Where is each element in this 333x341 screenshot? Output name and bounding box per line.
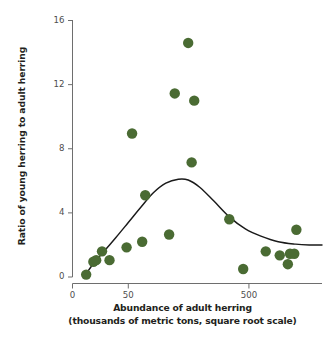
x-axis-title: Abundance of adult herring (thousands of… — [40, 302, 325, 327]
data-point — [189, 95, 199, 105]
data-point — [104, 255, 114, 265]
data-point — [91, 255, 101, 265]
y-tick-label: 12 — [31, 79, 65, 89]
data-point — [140, 190, 150, 200]
data-point — [291, 225, 301, 235]
x-tick-label: 0 — [53, 290, 93, 300]
data-point — [137, 237, 147, 247]
y-tick-label: 0 — [31, 271, 65, 281]
data-point — [283, 259, 293, 269]
x-axis-title-line1: Abundance of adult herring — [113, 302, 252, 313]
x-tick-label: 500 — [229, 290, 269, 300]
data-point — [81, 269, 91, 279]
data-point — [183, 38, 193, 48]
data-point — [289, 249, 299, 259]
plot-area — [0, 0, 333, 341]
x-axis-title-line2: (thousands of metric tons, square root s… — [40, 315, 325, 328]
data-point — [186, 157, 196, 167]
y-axis-ticks — [68, 21, 73, 278]
data-points — [81, 38, 302, 280]
x-tick-label: 50 — [108, 290, 148, 300]
data-point — [275, 250, 285, 260]
y-tick-label: 8 — [31, 143, 65, 153]
y-tick-label: 16 — [31, 15, 65, 25]
data-point — [238, 264, 248, 274]
data-point — [164, 229, 174, 239]
scatter-chart-figure: Ratio of young herring to adult herring … — [0, 0, 333, 341]
data-point — [97, 246, 107, 256]
data-point — [170, 88, 180, 98]
y-tick-label: 4 — [31, 207, 65, 217]
data-point — [261, 246, 271, 256]
x-axis-ticks — [73, 284, 249, 289]
data-point — [224, 214, 234, 224]
data-point — [121, 242, 131, 252]
y-axis-title: Ratio of young herring to adult herring — [14, 17, 30, 275]
data-point — [127, 128, 137, 138]
